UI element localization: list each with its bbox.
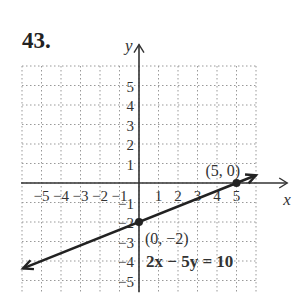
x-tick-label: 1 <box>155 188 163 204</box>
y-tick-label: 4 <box>127 98 135 114</box>
graph-figure: 43. xy−5−4−3−2−11234554321−1−2−3−4−5(0, … <box>0 0 307 295</box>
x-tick-label: 5 <box>233 188 241 204</box>
data-point <box>135 218 143 226</box>
y-tick-label: 3 <box>127 118 135 134</box>
y-tick-label: 2 <box>127 137 135 153</box>
point-label-y-intercept: (0, −2) <box>145 230 189 248</box>
data-point <box>233 179 241 187</box>
x-tick-label: 3 <box>194 188 202 204</box>
y-axis-label: y <box>123 36 133 55</box>
coordinate-plane: xy−5−4−3−2−11234554321−1−2−3−4−5(0, −2)(… <box>0 0 307 295</box>
y-tick-label: 5 <box>127 79 135 95</box>
equation-label: 2x − 5y = 10 <box>146 252 233 271</box>
y-tick-label: 1 <box>127 157 135 173</box>
x-tick-label: −3 <box>73 188 89 204</box>
x-tick-label: 2 <box>174 188 182 204</box>
y-tick-label: −5 <box>118 274 134 290</box>
y-tick-label: −3 <box>118 235 134 251</box>
x-tick-label: −5 <box>34 188 50 204</box>
x-tick-label: −4 <box>53 188 69 204</box>
y-tick-label: −1 <box>118 196 134 212</box>
x-axis-label: x <box>282 190 291 209</box>
point-label-x-intercept: (5, 0) <box>206 162 241 180</box>
y-tick-label: −4 <box>118 254 134 270</box>
x-tick-label: −2 <box>92 188 108 204</box>
